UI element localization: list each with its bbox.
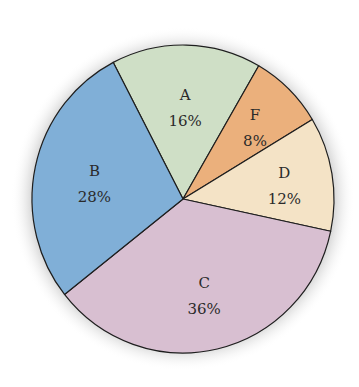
slice-label-d: D [278,164,290,182]
slice-value-a: 16% [168,112,201,130]
slice-label-b: B [89,162,100,180]
slice-value-b: 28% [78,188,111,206]
slice-value-c: 36% [188,300,221,318]
pie-chart: A16%F8%D12%C36%B28% [0,0,359,387]
slice-value-f: 8% [243,132,267,150]
slice-value-d: 12% [268,190,301,208]
slice-label-a: A [179,86,191,104]
slice-label-c: C [198,274,209,292]
slice-label-f: F [250,106,260,124]
